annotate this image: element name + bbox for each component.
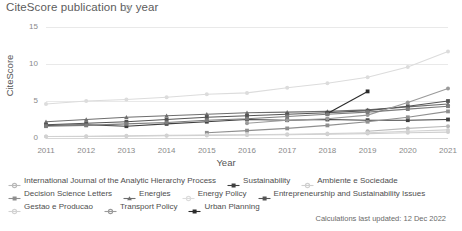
data-point [124,98,128,102]
legend-item[interactable]: Energies [123,189,171,198]
data-point [366,120,370,124]
data-point [406,107,410,111]
chart-series-canvas [0,18,452,146]
series-line [46,51,448,104]
legend-item[interactable]: Ambiente e Sociedade [301,176,398,185]
data-point [44,124,48,128]
legend-item[interactable]: International Journal of the Analytic Hi… [8,176,216,185]
data-point [446,104,450,108]
legend-item[interactable]: Urban Planning [188,202,259,211]
data-point [366,131,370,135]
data-point [406,129,410,133]
x-tick-2019: 2019 [348,146,388,155]
legend-item-label: Entrepreneurship and Sustainability Issu… [274,189,426,198]
data-point [285,118,289,122]
legend-item-label: Energies [139,189,171,198]
data-point [366,75,370,79]
data-point [245,129,249,133]
data-point [406,101,410,105]
data-point [285,86,289,90]
legend-row-2: Gestao e ProducaoTransport PolicyUrban P… [8,200,448,213]
data-point [446,118,450,122]
data-point [84,124,88,128]
x-tick-2021: 2021 [428,146,462,155]
data-point [326,124,330,128]
circle-marker-icon [8,176,21,185]
circle-marker-icon [104,202,117,211]
data-point [205,118,209,122]
data-point [285,132,289,136]
legend-item[interactable]: Entrepreneurship and Sustainability Issu… [258,189,426,198]
data-point [245,121,249,125]
legend-item-label: Gestao e Producao [24,202,93,211]
data-point [446,128,450,132]
x-axis-label: Year [0,157,452,168]
legend-item[interactable]: Gestao e Producao [8,202,93,211]
data-point [84,99,88,103]
triangle-marker-icon [123,189,136,198]
square-marker-icon [8,189,21,198]
x-tick-2011: 2011 [26,146,66,155]
data-point [326,112,330,116]
data-point [446,99,450,103]
data-point [124,134,128,138]
legend-item-label: Decision Science Letters [24,189,112,198]
data-point [325,117,329,121]
legend-item-label: Transport Policy [120,202,178,211]
data-point [205,92,209,96]
circle-marker-icon [8,202,21,211]
legend-item[interactable]: Energy Policy [182,189,247,198]
x-tick-2020: 2020 [388,146,428,155]
square-marker-icon [227,176,240,185]
x-tick-2018: 2018 [307,146,347,155]
data-point [446,49,450,53]
data-point [366,90,370,94]
x-tick-2017: 2017 [267,146,307,155]
legend-item[interactable]: Transport Policy [104,202,178,211]
data-point [245,133,249,137]
data-point [165,133,169,137]
square-marker-icon [188,202,201,211]
legend-item-label: Ambiente e Sociedade [317,176,398,185]
last-updated-note: Calculations last updated: 12 Dec 2022 [315,214,446,223]
data-point [165,121,169,125]
data-point [325,81,329,85]
data-point [84,134,88,138]
page-title: CiteScore publication by year [6,1,158,13]
legend-item-label: Urban Planning [204,202,259,211]
data-point [285,127,289,131]
series-5 [44,49,450,106]
data-point [205,133,209,137]
legend-item-label: Energy Policy [198,189,247,198]
circle-marker-icon [182,189,195,198]
legend-item[interactable]: Decision Science Letters [8,189,112,198]
data-point [245,117,249,121]
data-point [366,110,370,114]
legend-item-label: International Journal of the Analytic Hi… [24,176,216,185]
data-point [44,102,48,106]
data-point [245,91,249,95]
legend-row-0: International Journal of the Analytic Hi… [8,174,448,187]
x-tick-2014: 2014 [147,146,187,155]
x-tick-2012: 2012 [66,146,106,155]
circle-marker-icon [301,176,314,185]
data-point [44,135,48,139]
data-point [406,65,410,69]
legend-item[interactable]: Sustainability [227,176,290,185]
square-marker-icon [258,189,271,198]
data-point [325,132,329,136]
data-point [446,124,450,128]
data-point [406,115,410,119]
x-tick-2015: 2015 [187,146,227,155]
data-point [446,110,450,114]
data-point [285,115,289,119]
legend-item-label: Sustainability [243,176,290,185]
x-tick-2013: 2013 [106,146,146,155]
chart-legend: International Journal of the Analytic Hi… [8,174,448,213]
data-point [125,122,129,126]
chart-plot-area: CiteScore 051015 [0,18,452,146]
legend-row-1: Decision Science LettersEnergiesEnergy P… [8,187,448,200]
data-point [165,95,169,99]
info-circle-icon[interactable] [124,5,131,12]
